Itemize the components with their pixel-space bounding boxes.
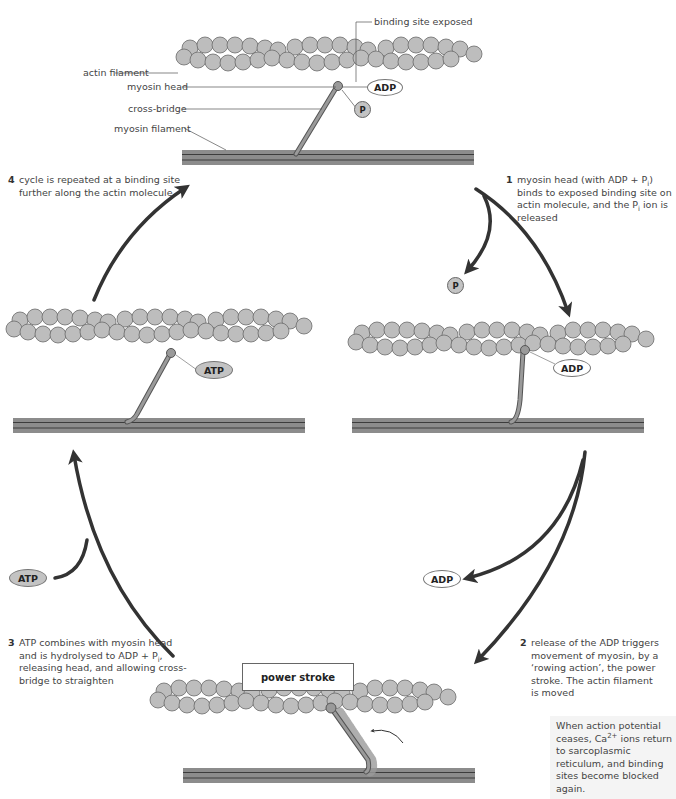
label-binding-site-exposed: binding site exposed	[374, 16, 473, 28]
atp-molecule-left: ATP	[195, 361, 233, 379]
step-2-description: release of the ADP triggers movement of …	[520, 637, 662, 700]
label-actin-filament: actin filament	[83, 67, 149, 79]
myosin-filament-left	[13, 418, 305, 433]
arrow-adp-release	[468, 460, 583, 578]
myosin-filament-top	[182, 150, 474, 165]
step-2-text: 2 release of the ADP triggers movement o…	[520, 637, 662, 700]
left-panel	[6, 309, 312, 433]
phosphate-top: P	[354, 101, 371, 118]
atp-incoming: ATP	[9, 569, 47, 587]
step-3-number: 3	[8, 637, 15, 650]
arrow-step4	[94, 188, 185, 300]
myosin-filament-right	[352, 418, 644, 433]
step-2-number: 2	[520, 637, 527, 650]
step-4-number: 4	[8, 174, 15, 187]
arrow-atp-join	[55, 540, 87, 578]
adp-molecule-right: ADP	[553, 359, 591, 377]
label-cross-bridge: cross-bridge	[128, 103, 187, 115]
step-1-text: 1 myosin head (with ADP + Pi) binds to e…	[506, 174, 674, 224]
note-calcium: When action potential ceases, Ca2+ ions …	[550, 716, 676, 799]
actin-filament-right	[348, 322, 654, 356]
step-1-description: myosin head (with ADP + Pi) binds to exp…	[506, 174, 674, 224]
actin-filament-top	[176, 37, 482, 71]
top-panel	[115, 22, 482, 165]
arrow-step2	[478, 452, 585, 660]
step-3-text: 3 ATP combines with myosin head and is h…	[8, 637, 188, 687]
label-myosin-filament: myosin filament	[114, 123, 191, 135]
arrow-p-release	[468, 196, 490, 270]
power-stroke-label: power stroke	[242, 663, 354, 691]
released-phosphate: P	[447, 277, 464, 294]
adp-molecule-top: ADP	[367, 79, 403, 96]
adp-outgoing: ADP	[423, 570, 461, 588]
myosin-filament-bottom	[183, 768, 475, 783]
actin-filament-left	[6, 309, 312, 343]
step-3-description: ATP combines with myosin head and is hyd…	[8, 637, 188, 687]
step-1-number: 1	[506, 174, 513, 187]
right-panel	[348, 322, 654, 433]
step-4-description: cycle is repeated at a binding site furt…	[8, 174, 188, 199]
rowing-motion-arrow	[372, 730, 403, 743]
bottom-panel	[150, 680, 475, 783]
step-4-text: 4 cycle is repeated at a binding site fu…	[8, 174, 188, 199]
label-myosin-head: myosin head	[127, 81, 188, 93]
arrow-step3	[74, 455, 173, 656]
